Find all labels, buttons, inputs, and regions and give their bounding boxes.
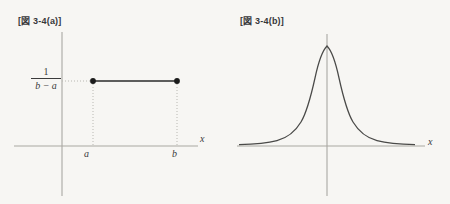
- panel-uniform-distribution: [図 3-4(a)] 1: [0, 0, 225, 204]
- x-axis-label: x: [428, 136, 432, 147]
- endpoint-dot-b: [174, 78, 180, 84]
- fraction-denominator: b − a: [25, 80, 67, 91]
- x-tick-label-b: b: [172, 148, 177, 159]
- fraction-bar: [31, 78, 61, 79]
- fraction-numerator: 1: [25, 66, 67, 77]
- panel-b-plot-area: [225, 0, 450, 204]
- panel-a-svg: [0, 0, 225, 204]
- endpoint-dot-a: [90, 78, 96, 84]
- y-value-fraction-label: 1 b − a: [25, 66, 67, 91]
- x-tick-label-a: a: [84, 148, 89, 159]
- panel-b-svg: [225, 0, 450, 204]
- figure-panels: [図 3-4(a)] 1: [0, 0, 450, 204]
- x-axis-label: x: [200, 133, 204, 144]
- panel-a-plot-area: [0, 0, 225, 204]
- panel-normal-distribution: [図 3-4(b)] x: [225, 0, 450, 204]
